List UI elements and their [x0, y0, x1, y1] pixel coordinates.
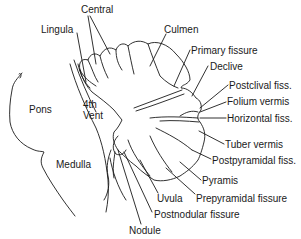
leader-postclival [200, 85, 228, 108]
leader-culmen [150, 34, 166, 66]
label-lingula: Lingula [41, 24, 73, 35]
label-postpyramidal-fiss: Postpyramidal fiss. [212, 155, 296, 166]
horizontal-fissure-line-2 [160, 121, 199, 122]
pons-outline [10, 73, 75, 216]
lingula-folds [78, 64, 96, 88]
pyramis-folds [150, 136, 172, 172]
leader-pyramis [180, 162, 201, 180]
cerebellum-diagram: Central Lingula Culmen Primary fissure D… [0, 0, 301, 239]
primary-fissure-line-2 [136, 94, 184, 111]
leader-folium [200, 102, 226, 112]
primary-fissure-line [134, 90, 182, 108]
leader-declive [192, 66, 208, 96]
label-postnodular-fissure: Postnodular fissure [154, 209, 240, 220]
label-declive: Declive [210, 61, 243, 72]
label-central: Central [81, 4, 113, 15]
label-postclival-fiss: Postclival fiss. [229, 80, 292, 91]
leader-tuber [199, 131, 224, 144]
label-pyramis: Pyramis [202, 175, 238, 186]
label-pons: Pons [29, 104, 52, 115]
label-folium-vermis: Folium vermis [227, 96, 289, 107]
vent-line-c [110, 158, 126, 200]
label-prepyramidal-fissure: Prepyramidal fissure [196, 193, 287, 204]
brainstem-dorsal-line [70, 64, 108, 212]
label-medulla: Medulla [56, 159, 91, 170]
leader-primary [174, 50, 190, 86]
horizontal-fissure-line [150, 117, 198, 118]
central-folia [88, 50, 122, 82]
label-nodule: Nodule [129, 225, 161, 236]
label-horizontal-fiss: Horizontal fiss. [227, 113, 293, 124]
leader-uvula [140, 160, 158, 193]
label-primary-fissure: Primary fissure [191, 45, 258, 56]
culmen-folds [128, 44, 178, 88]
label-fourth-ventricle: 4th Vent [83, 99, 103, 121]
tuber-folds [156, 128, 192, 150]
declive-folds [180, 111, 198, 116]
leader-prepyramidal [166, 168, 195, 194]
uvula-folds [128, 140, 150, 176]
label-culmen: Culmen [164, 24, 198, 35]
label-tuber-vermis: Tuber vermis [225, 139, 283, 150]
label-uvula: Uvula [157, 193, 183, 204]
